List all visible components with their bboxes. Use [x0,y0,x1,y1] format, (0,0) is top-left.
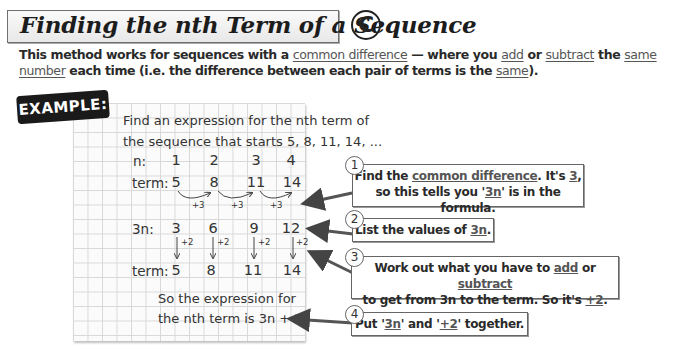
step-text: . [487,223,491,237]
n-value: 2 [199,152,229,168]
intro-text: This method works for sequences with a [19,47,293,62]
adjustment-label: +2 [258,237,271,247]
3n-value: 9 [239,220,269,236]
n-value: 4 [276,152,306,168]
step-text: , [577,169,581,183]
intro-text: ). [528,63,538,78]
intro-text: each time (i.e. the difference between e… [65,63,496,78]
step-1-line-2: so this tells you '3n' is in the formula… [353,184,583,216]
term-add: add [501,47,523,62]
difference-label: +3 [192,200,205,210]
term-value: 14 [277,174,307,190]
term-same: same [496,63,528,78]
step-term: 3n [385,317,401,331]
step-text: Work out what you have to [374,261,553,275]
step-term: 3n [485,185,501,199]
step-3-line-2: to get from 3n to the term. So it's +2. [352,292,618,308]
step-3-callout: Work out what you have to add or subtrac… [351,256,619,299]
n-value: 3 [241,152,271,168]
difference-label: +3 [270,200,283,210]
step-term: +2 [440,317,458,331]
question-line-2: the sequence that starts 5, 8, 11, 14, .… [123,134,382,149]
term-subtract: subtract [545,47,594,62]
term-value: 8 [199,174,229,190]
step-2-callout: List the values of 3n. [352,218,494,242]
question-line-1: Find an expression for the nth term of [123,113,369,128]
intro-text: the [594,47,624,62]
page-title: Finding the nth Term of a Sequence [20,11,476,38]
term-value: 11 [241,174,271,190]
term-value: 11 [238,262,268,278]
term-common-difference: common difference [293,47,408,62]
conclusion-line-1: So the expression for [158,291,296,306]
3n-value: 6 [198,220,228,236]
term-value: 14 [277,262,307,278]
step-1-number-icon: 1 [345,156,364,175]
conclusion-line-2: the nth term is 3n + 2 [158,311,303,326]
term-value: 5 [161,262,191,278]
step-term: 3n [470,223,486,237]
n-value: 1 [161,152,191,168]
3n-value: 3 [161,220,191,236]
step-text: or [578,261,595,275]
step-term: subtract [458,277,512,291]
intro-text: or [524,47,546,62]
step-text: ' and ' [401,317,440,331]
grade-c-icon: C [351,10,381,40]
adjustment-label: +2 [296,237,309,247]
step-2-number-icon: 2 [345,210,364,229]
step-term: +2 [585,293,603,307]
intro-paragraph: This method works for sequences with a c… [19,47,669,79]
step-text: List the values of [355,223,470,237]
row-n-label: n: [133,153,146,169]
step-text: Find the [354,169,412,183]
step-text: . [603,293,607,307]
3n-value: 12 [276,220,306,236]
adjustment-label: +2 [181,237,194,247]
step-3-line-1: Work out what you have to add or subtrac… [352,260,618,292]
difference-label: +3 [231,200,244,210]
step-1-callout: Find the common difference. It's 3, so t… [352,164,584,207]
step-term: common difference [412,169,537,183]
step-1-line-1: Find the common difference. It's 3, [353,168,583,184]
step-3-number-icon: 3 [345,248,364,267]
term-value: 8 [196,262,226,278]
adjustment-label: +2 [217,237,230,247]
step-text: . It's [537,169,569,183]
step-term: add [554,261,578,275]
step-4-number-icon: 4 [345,305,364,324]
step-4-callout: Put '3n' and '+2' together. [351,312,528,336]
row-3n-label: 3n: [132,221,154,237]
intro-text: — where you [407,47,501,62]
step-text: so this tells you ' [375,185,484,199]
title-box: Finding the nth Term of a Sequence [7,10,339,43]
step-text: ' together. [457,317,523,331]
term-value: 5 [161,174,191,190]
step-text: to get from 3n to the term. So it's [363,293,586,307]
